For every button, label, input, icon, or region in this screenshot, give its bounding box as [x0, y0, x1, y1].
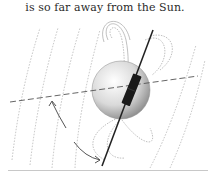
bottom-divider	[8, 170, 208, 171]
planet-sphere	[92, 61, 150, 119]
magnetic-dipole-diagram	[0, 0, 210, 175]
tilt-arrows	[49, 101, 100, 163]
